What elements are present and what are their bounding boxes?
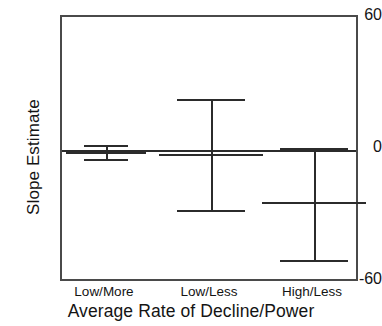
cap-upper-low-more bbox=[84, 145, 128, 147]
cap-lower-low-more bbox=[84, 159, 128, 161]
cap-upper-low-less bbox=[177, 99, 245, 101]
estimate-mark-low-less bbox=[159, 154, 263, 156]
cap-lower-low-less bbox=[177, 210, 245, 212]
cap-upper-high-less bbox=[280, 148, 348, 150]
whisker-high-less bbox=[314, 148, 316, 260]
y-axis-title: Slope Estimate bbox=[24, 57, 44, 257]
estimate-mark-high-less bbox=[262, 202, 366, 204]
estimate-mark-low-more bbox=[66, 152, 146, 154]
chart-figure: Slope Estimate 60 0 -60 Low/More bbox=[0, 0, 382, 326]
x-tick-label-high-less: High/Less bbox=[242, 284, 382, 299]
x-axis-title: Average Rate of Decline/Power bbox=[0, 301, 382, 322]
cap-lower-high-less bbox=[280, 260, 348, 262]
plot-area bbox=[60, 15, 358, 281]
